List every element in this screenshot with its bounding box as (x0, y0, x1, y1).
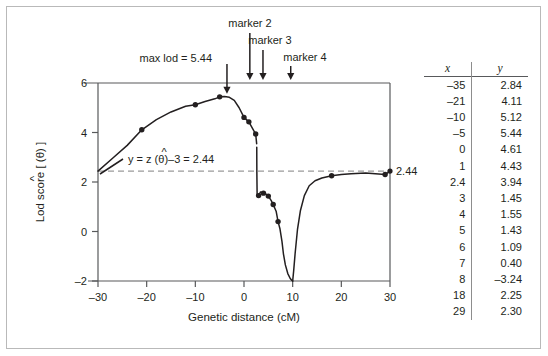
cell-x: 5 (424, 223, 472, 239)
table-row: 41.55 (424, 207, 528, 223)
threshold-value-label: 2.44 (396, 165, 417, 177)
x-tick-label: –30 (89, 291, 107, 303)
table-row: –352.84 (424, 77, 528, 94)
curve-right-branch (293, 171, 390, 281)
cell-x: –5 (424, 126, 472, 142)
table-row: 51.43 (424, 223, 528, 239)
cell-x: 18 (424, 288, 472, 304)
equation-annotation: y = z (θ)–3 = 2.44 (128, 153, 214, 165)
cell-x: 0 (424, 142, 472, 158)
y-tick-label: 0 (81, 226, 87, 238)
table-row: 14.43 (424, 158, 528, 174)
table-row: –105.12 (424, 109, 528, 125)
curve-drop-to-trough (257, 147, 293, 281)
max-lod-label: max lod = 5.44 (140, 52, 212, 64)
x-tick-label: –20 (137, 291, 155, 303)
cell-y: 2.25 (472, 288, 528, 304)
cell-x: –10 (424, 109, 472, 125)
cell-x: 2.4 (424, 174, 472, 190)
data-point (193, 102, 198, 107)
cell-y: 4.43 (472, 158, 528, 174)
cell-y: 1.45 (472, 190, 528, 206)
y-tick-label: 4 (81, 127, 87, 139)
cell-x: 6 (424, 239, 472, 255)
cell-y: 0.40 (472, 255, 528, 271)
cell-y: 1.55 (472, 207, 528, 223)
data-point (329, 173, 334, 178)
cell-y: 5.44 (472, 126, 528, 142)
cell-y: 1.09 (472, 239, 528, 255)
x-axis-title: Genetic distance (cM) (188, 311, 300, 323)
table-row: 31.45 (424, 190, 528, 206)
table-row: –214.11 (424, 93, 528, 109)
x-tick-label: –10 (186, 291, 204, 303)
data-point (261, 190, 266, 195)
cell-y: 2.30 (472, 304, 528, 320)
cell-y: 4.11 (472, 93, 528, 109)
table-header-row: x y (424, 62, 528, 77)
cell-x: 8 (424, 271, 472, 287)
y-tick-label: 6 (81, 77, 87, 89)
cell-y: 3.94 (472, 174, 528, 190)
cell-y: 2.84 (472, 77, 528, 94)
data-point (382, 172, 387, 177)
marker2-label: marker 2 (228, 17, 271, 29)
cell-x: –21 (424, 93, 472, 109)
marker4-arrow-head (287, 73, 294, 80)
marker3-arrow-head (259, 73, 266, 80)
xy-data-table: x y –352.84–214.11–105.12–55.4404.6114.4… (424, 62, 528, 320)
x-tick-label: 20 (335, 291, 347, 303)
cell-x: –35 (424, 77, 472, 94)
table-row: 8–3.24 (424, 271, 528, 287)
data-point (275, 219, 280, 224)
x-tick-label: 10 (287, 291, 299, 303)
table-row: 70.40 (424, 255, 528, 271)
cell-x: 4 (424, 207, 472, 223)
data-point (256, 193, 261, 198)
cell-x: 1 (424, 158, 472, 174)
equation-theta-hat: ^ (161, 146, 167, 158)
x-tick-label: 0 (241, 291, 247, 303)
cell-x: 3 (424, 190, 472, 206)
cell-x: 29 (424, 304, 472, 320)
cell-x: 7 (424, 255, 472, 271)
y-axis-title-hat: ^ (28, 175, 40, 181)
cell-y: 1.43 (472, 223, 528, 239)
data-point (271, 202, 276, 207)
table-row: 61.09 (424, 239, 528, 255)
lod-score-figure: –20246–30–20–100102030Genetic distance (… (0, 0, 548, 356)
data-point (241, 115, 246, 120)
cell-y: –3.24 (472, 271, 528, 287)
marker4-label: marker 4 (283, 51, 326, 63)
data-point (266, 193, 271, 198)
column-header-x: x (424, 62, 472, 77)
table-row: 292.30 (424, 304, 528, 320)
column-header-y: y (472, 62, 528, 77)
y-tick-label: –2 (75, 275, 87, 287)
marker2-arrow-head (246, 73, 253, 80)
table-row: 182.25 (424, 288, 528, 304)
marker3-label: marker 3 (248, 34, 291, 46)
max-lod-arrow-head (223, 87, 230, 94)
table-row: 04.61 (424, 142, 528, 158)
x-tick-label: 30 (384, 291, 396, 303)
table-row: 2.43.94 (424, 174, 528, 190)
cell-y: 4.61 (472, 142, 528, 158)
cell-y: 5.12 (472, 109, 528, 125)
table-row: –55.44 (424, 126, 528, 142)
y-tick-label: 2 (81, 176, 87, 188)
data-point (246, 119, 251, 124)
data-point (217, 94, 222, 99)
data-point (139, 127, 144, 132)
data-point (253, 131, 258, 136)
